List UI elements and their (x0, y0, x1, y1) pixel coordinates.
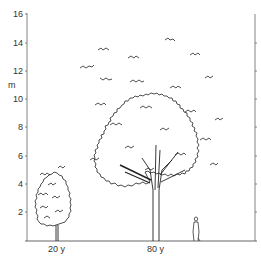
tree-20y (35, 166, 71, 241)
tree-20y-crown-outline (35, 172, 71, 226)
y-tick-6: 6 (7, 151, 23, 161)
y-tick-10: 10 (7, 94, 23, 104)
left-axis (25, 13, 27, 241)
tree-20y-label: 20 y (48, 244, 65, 254)
tree-80y-trunk (120, 145, 185, 241)
tree-80y (80, 38, 223, 187)
y-tick-4: 4 (7, 179, 23, 189)
y-tick-8: 8 (7, 122, 23, 132)
y-tick-2: 2 (7, 207, 23, 217)
y-tick-14: 14 (7, 38, 23, 48)
y-axis-unit: m (8, 80, 16, 90)
tree-80y-crown-outline (94, 93, 199, 187)
y-tick-16: 16 (7, 9, 23, 19)
y-tick-12: 12 (7, 66, 23, 76)
right-axis (255, 14, 257, 241)
human-figure-icon (193, 217, 200, 241)
tree-growth-diagram (0, 0, 261, 265)
tree-80y-label: 80 y (147, 244, 164, 254)
